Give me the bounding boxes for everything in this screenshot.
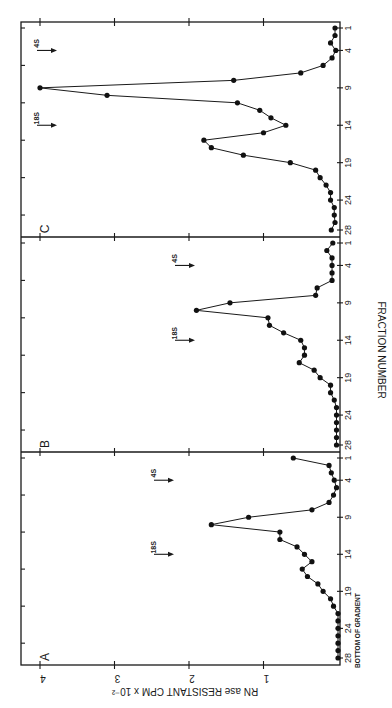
data-point xyxy=(334,412,339,417)
data-point xyxy=(261,130,266,135)
data-point xyxy=(37,85,42,90)
value-tick-label: 3 xyxy=(114,673,120,684)
data-point xyxy=(332,25,337,30)
fraction-tick-label: 14 xyxy=(343,549,353,559)
bottom-of-gradient-label: BOTTOM OF GRADIENT xyxy=(354,593,361,668)
data-point xyxy=(329,470,334,475)
fraction-tick-label: 28 xyxy=(343,440,353,450)
data-point xyxy=(315,285,320,290)
data-point xyxy=(246,515,251,520)
data-point xyxy=(328,383,333,388)
fraction-tick-label: 9 xyxy=(343,85,353,90)
data-point xyxy=(334,435,339,440)
arrow-head-icon xyxy=(168,478,174,483)
data-point xyxy=(268,115,273,120)
axis-labels: RN ase RESISTANT CPM x 10⁻² FRACTION NUM… xyxy=(111,301,387,697)
data-point xyxy=(335,648,340,653)
data-point xyxy=(335,641,340,646)
data-point xyxy=(281,330,286,335)
arrow-head-icon xyxy=(51,48,57,53)
data-point xyxy=(333,48,338,53)
data-point xyxy=(334,485,339,490)
marker-label-4s: 4S xyxy=(150,469,157,478)
data-point xyxy=(265,315,270,320)
panel-b: 28241914941B18S4S xyxy=(21,240,353,450)
data-point xyxy=(334,442,339,447)
data-point xyxy=(235,100,240,105)
data-point xyxy=(209,145,214,150)
data-point xyxy=(309,559,314,564)
data-point xyxy=(298,70,303,75)
data-point xyxy=(328,40,333,45)
fraction-tick-label: 1 xyxy=(343,240,353,245)
fraction-tick-label: 4 xyxy=(343,48,353,53)
marker-label-18s: 18S xyxy=(171,327,178,340)
data-point xyxy=(323,183,328,188)
marker-label-4s: 4S xyxy=(171,254,178,263)
data-point xyxy=(330,240,335,245)
data-point xyxy=(318,375,323,380)
data-point xyxy=(326,463,331,468)
data-point xyxy=(288,160,293,165)
data-line xyxy=(211,458,338,658)
data-point xyxy=(332,205,337,210)
data-line xyxy=(196,243,336,445)
data-point xyxy=(298,338,303,343)
arrow-head-icon xyxy=(168,552,174,557)
data-point xyxy=(332,33,337,38)
panel-label: A xyxy=(38,653,52,661)
data-point xyxy=(267,323,272,328)
data-point xyxy=(305,574,310,579)
data-point xyxy=(297,360,302,365)
arrow-head-icon xyxy=(189,338,195,343)
data-point xyxy=(302,552,307,557)
data-point xyxy=(328,197,333,202)
x-axis-title: FRACTION NUMBER xyxy=(376,301,387,398)
data-point xyxy=(231,78,236,83)
data-point xyxy=(334,405,339,410)
fraction-tick-label: 14 xyxy=(343,120,353,130)
data-point xyxy=(104,93,109,98)
data-point xyxy=(312,368,317,373)
data-point xyxy=(313,293,318,298)
fraction-tick-label: 24 xyxy=(343,623,353,633)
data-point xyxy=(321,63,326,68)
data-point xyxy=(329,278,334,283)
panel-a: 28241914941A18S4S xyxy=(21,455,353,663)
fraction-tick-label: 24 xyxy=(343,410,353,420)
data-point xyxy=(335,626,340,631)
fraction-tick-label: 19 xyxy=(343,373,353,383)
fraction-tick-label: 19 xyxy=(343,586,353,596)
data-point xyxy=(302,345,307,350)
fraction-tick-label: 9 xyxy=(343,515,353,520)
fraction-tick-label: 14 xyxy=(343,335,353,345)
data-point xyxy=(332,398,337,403)
data-line xyxy=(40,28,336,230)
fraction-tick-label: 28 xyxy=(343,225,353,235)
fraction-tick-label: 4 xyxy=(343,263,353,268)
arrow-head-icon xyxy=(189,263,195,268)
data-point xyxy=(324,248,329,253)
data-point xyxy=(309,507,314,512)
marker-label-18s: 18S xyxy=(33,112,40,125)
data-point xyxy=(315,581,320,586)
data-point xyxy=(335,633,340,638)
sedimentation-chart-figure: 1234 28241914941A18S4S28241914941B18S4S2… xyxy=(0,0,392,708)
fraction-tick-label: 1 xyxy=(343,455,353,460)
fraction-tick-label: 28 xyxy=(343,653,353,663)
data-point xyxy=(201,138,206,143)
panel-label: B xyxy=(38,440,52,448)
data-point xyxy=(318,175,323,180)
plot-border xyxy=(21,22,340,665)
data-point xyxy=(209,522,214,527)
data-point xyxy=(332,220,337,225)
data-point xyxy=(294,544,299,549)
fraction-tick-label: 4 xyxy=(343,478,353,483)
data-point xyxy=(227,300,232,305)
data-point xyxy=(300,567,305,572)
data-point xyxy=(329,255,334,260)
data-point xyxy=(334,427,339,432)
data-point xyxy=(332,478,337,483)
data-point xyxy=(328,390,333,395)
data-point xyxy=(277,529,282,534)
